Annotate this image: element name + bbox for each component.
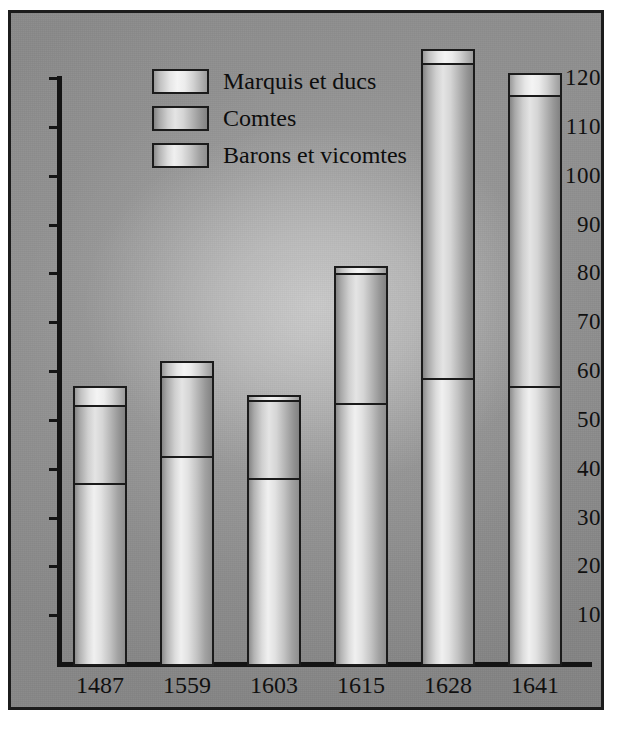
bar-segment-barons-et-vicomtes[interactable]: [421, 378, 475, 666]
barons-swatch: [152, 143, 209, 168]
comtes-swatch: [152, 106, 209, 131]
legend-item-label: Marquis et ducs: [223, 69, 376, 93]
x-axis-tick-label: 1641: [475, 673, 595, 697]
marquis-swatch: [152, 69, 209, 94]
bar-group[interactable]: [73, 13, 127, 707]
bar-segment-marquis-et-ducs[interactable]: [508, 73, 562, 97]
chart-page: 102030405060708090100110120 148715591603…: [0, 0, 624, 753]
bar-segment-marquis-et-ducs[interactable]: [160, 361, 214, 378]
y-axis-tick: [49, 565, 62, 568]
y-axis-tick: [49, 321, 62, 324]
y-axis-tick: [49, 77, 62, 80]
legend-item-label: Barons et vicomtes: [223, 143, 407, 167]
legend-item[interactable]: Barons et vicomtes: [152, 139, 407, 171]
legend-item[interactable]: Marquis et ducs: [152, 65, 407, 97]
bar-segment-comtes[interactable]: [508, 95, 562, 388]
figure-frame: 102030405060708090100110120 148715591603…: [8, 10, 604, 710]
y-axis-tick: [49, 468, 62, 471]
bar-segment-comtes[interactable]: [334, 273, 388, 404]
y-axis-tick: [49, 370, 62, 373]
chart-legend: Marquis et ducsComtesBarons et vicomtes: [152, 65, 407, 176]
legend-item[interactable]: Comtes: [152, 102, 407, 134]
bar-segment-barons-et-vicomtes[interactable]: [73, 483, 127, 666]
bar-segment-comtes[interactable]: [160, 376, 214, 459]
y-axis-tick: [49, 614, 62, 617]
bar-segment-barons-et-vicomtes[interactable]: [334, 403, 388, 666]
y-axis-tick: [49, 419, 62, 422]
bar-segment-marquis-et-ducs[interactable]: [421, 49, 475, 66]
y-axis-tick: [49, 272, 62, 275]
bar-segment-barons-et-vicomtes[interactable]: [508, 386, 562, 666]
bar-group[interactable]: [421, 13, 475, 707]
bar-segment-marquis-et-ducs[interactable]: [247, 395, 301, 402]
y-axis-tick: [49, 126, 62, 129]
bar-segment-comtes[interactable]: [73, 405, 127, 485]
y-axis-tick: [49, 224, 62, 227]
bar-segment-barons-et-vicomtes[interactable]: [160, 456, 214, 666]
bar-segment-comtes[interactable]: [421, 63, 475, 380]
bar-segment-barons-et-vicomtes[interactable]: [247, 478, 301, 666]
bar-segment-marquis-et-ducs[interactable]: [334, 266, 388, 275]
y-axis-tick: [49, 175, 62, 178]
legend-item-label: Comtes: [223, 106, 296, 130]
y-axis-tick: [49, 517, 62, 520]
bar-group[interactable]: [508, 13, 562, 707]
bar-segment-comtes[interactable]: [247, 400, 301, 480]
plot-area: 102030405060708090100110120 148715591603…: [11, 13, 601, 707]
bar-segment-marquis-et-ducs[interactable]: [73, 386, 127, 408]
